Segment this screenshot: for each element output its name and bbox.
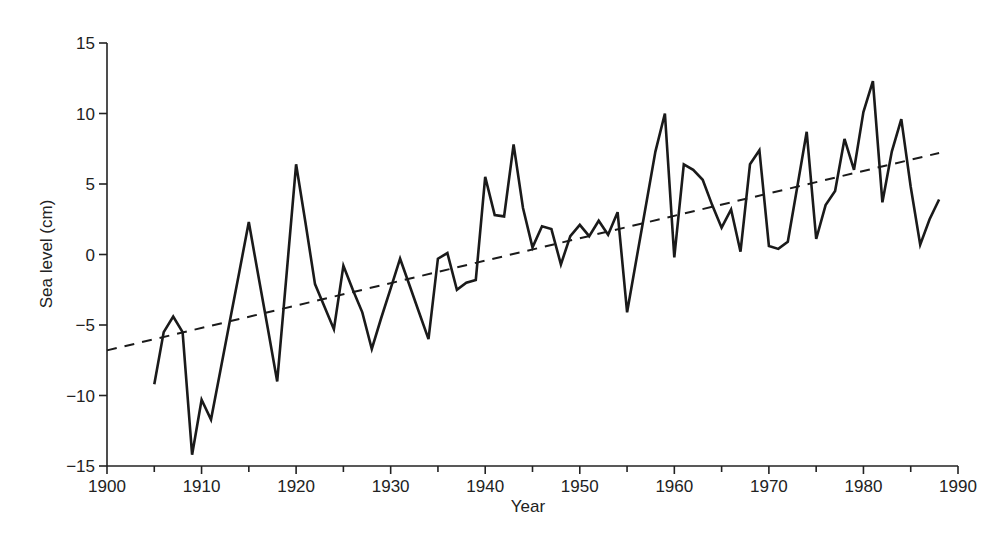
x-tick-label: 1940	[466, 477, 504, 496]
y-tick-label: −5	[76, 316, 95, 335]
y-tick-label: 15	[76, 34, 95, 53]
x-axis: 1900191019201930194019501960197019801990	[88, 466, 977, 496]
sea-level-series-line	[154, 81, 939, 455]
y-tick-label: 5	[86, 175, 95, 194]
x-axis-title: Year	[511, 497, 546, 516]
y-tick-label: 10	[76, 105, 95, 124]
y-tick-label: 0	[86, 246, 95, 265]
y-axis: −15−10−5051015	[66, 34, 107, 476]
x-tick-label: 1910	[183, 477, 221, 496]
y-tick-label: −15	[66, 457, 95, 476]
x-tick-label: 1980	[845, 477, 883, 496]
y-axis-title: Sea level (cm)	[37, 200, 56, 309]
x-tick-label: 1970	[750, 477, 788, 496]
sea-level-chart: −15−10−5051015 1900191019201930194019501…	[0, 0, 1008, 546]
x-tick-label: 1960	[655, 477, 693, 496]
x-tick-label: 1990	[939, 477, 977, 496]
y-tick-label: −10	[66, 387, 95, 406]
x-tick-label: 1920	[277, 477, 315, 496]
trend-line	[107, 153, 939, 350]
x-tick-label: 1950	[561, 477, 599, 496]
x-tick-label: 1900	[88, 477, 126, 496]
x-tick-label: 1930	[372, 477, 410, 496]
